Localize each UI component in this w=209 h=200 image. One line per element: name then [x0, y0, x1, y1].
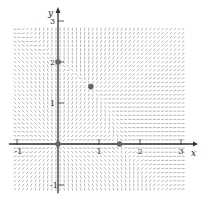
y-tick-label: 2: [50, 58, 55, 67]
x-tick-label: 2: [138, 147, 143, 156]
x-axis-label: x: [191, 148, 196, 158]
x-tick-label: 1: [97, 147, 102, 156]
y-axis-label: y: [47, 8, 54, 18]
y-tick-label: -1: [50, 181, 58, 190]
y-tick-label: 1: [50, 99, 55, 108]
direction-field-plot: -1123-1123 x y: [0, 0, 209, 200]
y-tick-label: 3: [50, 17, 55, 26]
equilibrium-point: [88, 84, 94, 90]
equilibrium-point: [55, 141, 61, 147]
x-tick-label: -1: [15, 147, 23, 156]
axes: [9, 7, 198, 193]
slope-field: [13, 28, 184, 191]
equilibrium-point: [117, 141, 123, 147]
equilibrium-point: [55, 59, 61, 65]
x-tick-label: 3: [179, 147, 184, 156]
